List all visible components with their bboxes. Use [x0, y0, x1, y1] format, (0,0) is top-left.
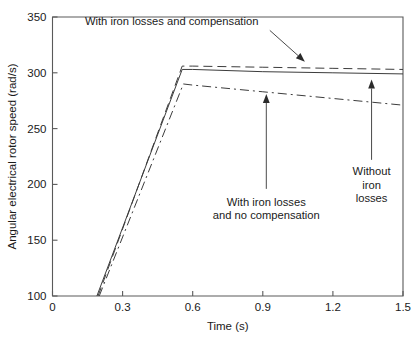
x-tick-label: 0: [49, 301, 55, 313]
y-tick-label: 350: [27, 11, 46, 23]
series-dash-dot: [99, 84, 403, 296]
annotation-line: losses: [356, 192, 388, 204]
annotation-arrow-head: [368, 79, 375, 88]
y-tick-label: 250: [27, 123, 46, 135]
annotation-line: and no compensation: [213, 209, 320, 221]
annotation-line: With iron losses and compensation: [85, 15, 259, 27]
x-axis-title: Time (s): [207, 320, 249, 332]
x-tick-label: 1.2: [325, 301, 341, 313]
annotation-line: Without: [353, 165, 392, 177]
x-tick-label: 0.9: [255, 301, 271, 313]
plot-frame: [53, 17, 404, 296]
annotation-without-iron-losses: Withoutironlosses: [353, 165, 392, 204]
annotation-with-iron-losses-and-compensation: With iron losses and compensation: [85, 15, 259, 27]
annotation-line: iron: [362, 179, 381, 191]
y-tick-label: 100: [27, 290, 46, 302]
chart-figure: 10015020025030035000.30.60.91.21.5Time (…: [0, 0, 418, 341]
x-tick-label: 0.3: [115, 301, 131, 313]
x-tick-label: 0.6: [185, 301, 201, 313]
y-tick-label: 300: [27, 67, 46, 79]
y-tick-label: 200: [27, 178, 46, 190]
series-solid: [97, 69, 403, 296]
annotation-leader-line: [270, 30, 298, 55]
annotation-line: With iron losses: [227, 196, 306, 208]
annotation-with-iron-losses-and-no-compensation: With iron lossesand no compensation: [213, 196, 320, 222]
x-tick-label: 1.5: [395, 301, 411, 313]
y-tick-label: 150: [27, 234, 46, 246]
y-axis-title: Angular electrical rotor speed (rad/s): [6, 63, 18, 249]
annotation-arrow-head: [263, 94, 270, 103]
plot-canvas: 10015020025030035000.30.60.91.21.5Time (…: [0, 0, 418, 341]
